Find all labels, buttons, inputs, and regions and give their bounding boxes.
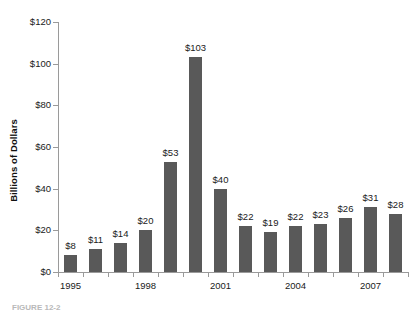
bar [339,218,352,272]
x-axis-tick-mark [308,272,309,277]
bar [389,214,402,272]
bar [114,243,127,272]
x-axis-tick-mark [133,272,134,277]
bar [239,226,252,272]
bar-value-label: $53 [163,148,179,158]
bar-value-label: $23 [313,210,329,220]
bar [189,57,202,272]
bar-value-label: $31 [363,193,379,203]
x-axis-tick-mark [83,272,84,277]
x-axis-tick-label: 1995 [60,281,81,291]
x-axis-tick-mark [408,272,409,277]
bar-value-label: $8 [65,241,76,251]
y-axis-tick-label: $100 [30,59,51,69]
bar-value-label: $40 [213,175,229,185]
bar [364,207,377,272]
x-axis-tick-mark [158,272,159,277]
bar [164,162,177,272]
x-axis-tick-label: 2004 [285,281,306,291]
bar [264,232,277,272]
bar [289,226,302,272]
bar [314,224,327,272]
plot-area: $0$20$40$60$80$100$120 19951998200120042… [58,22,408,272]
x-axis-tick-mark [233,272,234,277]
bar-value-label: $11 [88,235,103,245]
y-axis-tick-mark [53,147,58,148]
x-axis-tick-label: 2007 [360,281,381,291]
y-axis-tick-mark [53,230,58,231]
bar-value-label: $22 [238,212,254,222]
y-axis-tick-label: $20 [35,226,51,236]
y-axis-tick-mark [53,64,58,65]
y-axis-tick-mark [53,189,58,190]
y-axis-title: Billions of Dollars [4,92,22,228]
figure-caption: FIGURE 12-2 [12,303,242,312]
y-axis-tick-label: $120 [30,17,51,27]
y-axis-tick-mark [53,22,58,23]
x-axis-tick-mark [258,272,259,277]
x-axis-tick-mark [58,272,59,277]
bar-value-label: $14 [113,229,129,239]
x-axis-tick-mark [183,272,184,277]
x-axis-tick-mark [333,272,334,277]
y-axis-title-label: Billions of Dollars [8,119,19,202]
bar [64,255,77,272]
y-axis-line [58,22,59,272]
bar-value-label: $26 [338,204,354,214]
y-axis-tick-mark [53,105,58,106]
y-axis-tick-label: $40 [35,184,51,194]
x-axis-tick-mark [383,272,384,277]
bar [139,230,152,272]
bar [214,189,227,272]
x-axis-tick-mark [283,272,284,277]
x-axis-tick-mark [208,272,209,277]
x-axis-tick-mark [108,272,109,277]
y-axis-tick-label: $80 [35,101,51,111]
y-axis-tick-label: $60 [35,142,51,152]
bar-value-label: $19 [263,218,279,228]
bar-chart-figure: Billions of Dollars $0$20$40$60$80$100$1… [0,0,413,312]
y-axis-tick-label: $0 [40,267,51,277]
bar-value-label: $103 [185,43,206,53]
x-axis-tick-label: 2001 [210,281,231,291]
bar-value-label: $22 [288,212,304,222]
bar-value-label: $20 [138,216,154,226]
x-axis-tick-label: 1998 [135,281,156,291]
x-axis-tick-mark [358,272,359,277]
bar [89,249,102,272]
bar-value-label: $28 [388,200,404,210]
